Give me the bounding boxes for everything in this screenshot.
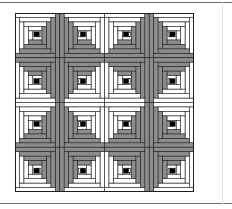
quilt-block	[105, 13, 150, 58]
quilt-block	[149, 147, 194, 192]
quilt-block	[105, 147, 150, 192]
quilt-block	[105, 58, 150, 103]
quilt-block	[149, 58, 194, 103]
quilt-graphic	[15, 13, 194, 192]
frame-bottom-rule	[0, 203, 232, 204]
quilt-block	[149, 13, 194, 58]
quilt-block	[60, 58, 105, 103]
log-cabin-quilt-illustration	[15, 13, 194, 192]
quilt-block	[60, 13, 105, 58]
quilt-block	[60, 103, 105, 148]
quilt-block	[15, 58, 60, 103]
quilt-block	[149, 103, 194, 148]
quilt-block	[60, 147, 105, 192]
frame-top-rule	[0, 2, 232, 3]
frame-right-rule	[222, 2, 223, 204]
quilt-block	[105, 103, 150, 148]
quilt-block	[15, 147, 60, 192]
quilt-block	[15, 103, 60, 148]
quilt-block	[15, 13, 60, 58]
